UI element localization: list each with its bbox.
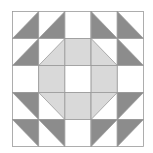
quilt-cell-3-3 [91,93,117,120]
quilt-cell-3-4 [117,93,143,120]
quilt-cell-4-4 [117,120,143,147]
quilt-cell-1-1 [39,39,65,66]
quilt-cell-4-3 [91,120,117,147]
quilt-cell-2-4 [117,66,143,93]
quilt-cell-1-0 [13,39,39,66]
quilt-cell-1-3 [91,39,117,66]
quilt-cell-3-0 [13,93,39,120]
quilt-cell-0-2 [65,12,91,39]
quilt-cell-2-1 [39,66,65,93]
quilt-cell-0-0 [13,12,39,39]
quilt-cell-2-2 [65,66,91,93]
quilt-cell-0-3 [91,12,117,39]
quilt-block [12,11,143,146]
quilt-cell-1-4 [117,39,143,66]
quilt-cell-1-2 [65,39,91,66]
quilt-cell-4-2 [65,120,91,147]
quilt-cell-4-0 [13,120,39,147]
quilt-cell-0-1 [39,12,65,39]
quilt-cell-0-4 [117,12,143,39]
quilt-cell-3-1 [39,93,65,120]
quilt-cell-2-3 [91,66,117,93]
quilt-cell-4-1 [39,120,65,147]
quilt-cell-3-2 [65,93,91,120]
quilt-cell-2-0 [13,66,39,93]
quilt-svg [12,11,144,147]
